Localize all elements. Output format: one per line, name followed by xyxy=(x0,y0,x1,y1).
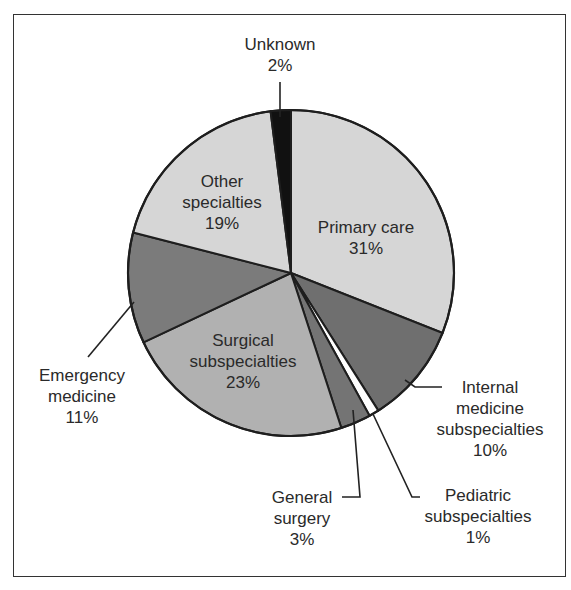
label-internal: Internalmedicinesubspecialties10% xyxy=(437,378,544,460)
pie-slices xyxy=(128,110,454,436)
label-unknown: Unknown2% xyxy=(245,35,316,75)
label-pediatric: Pediatricsubspecialties1% xyxy=(425,486,532,547)
leader-pediatric xyxy=(373,414,420,497)
label-general: Generalsurgery3% xyxy=(272,488,332,549)
label-emergency: Emergencymedicine11% xyxy=(39,366,125,427)
pie-chart: Unknown2% Otherspecialties19% Primary ca… xyxy=(0,0,571,590)
leader-emergency xyxy=(88,302,134,357)
